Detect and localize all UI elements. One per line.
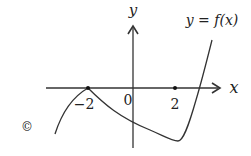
curve-label: y = f(x) (185, 12, 239, 28)
tick-label-2: 2 (171, 96, 180, 112)
point-x-minus-2 (86, 86, 90, 90)
point-x-2 (173, 86, 177, 90)
y-axis-label: y (128, 1, 138, 19)
x-axis-label: x (229, 78, 238, 97)
origin-label: 0 (124, 92, 133, 108)
function-graph: −2 0 2 x y y = f(x) © (0, 0, 251, 156)
option-marker: © (21, 120, 33, 134)
tick-label-minus-2: −2 (74, 96, 95, 112)
